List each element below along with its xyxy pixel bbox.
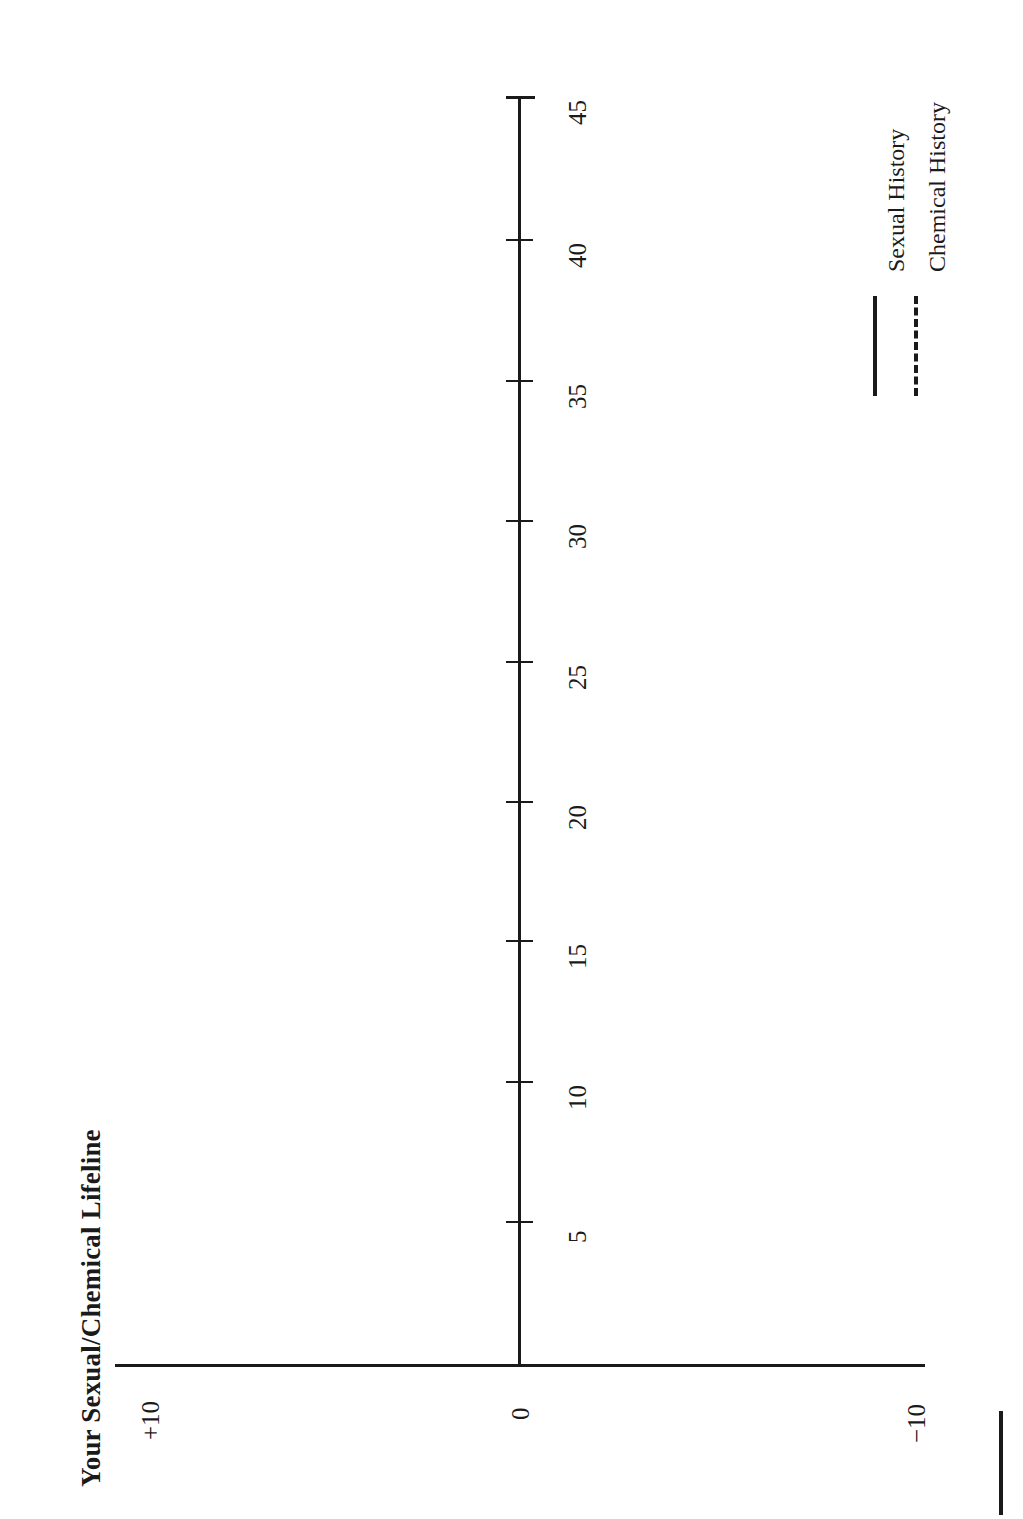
age-tick-15 [506,940,533,942]
age-tick-label-10: 10 [565,1085,590,1110]
age-tick-label-15: 15 [565,944,590,969]
age-tick-10 [506,1081,533,1083]
page-title: Your Sexual/Chemical Lifeline [78,1129,105,1487]
lifeline-worksheet-page: { "page": { "title": "Your Sexual/Chemic… [0,0,1023,1519]
age-tick-label-5: 5 [565,1231,590,1244]
age-tick-label-40: 40 [565,243,590,268]
age-tick-label-30: 30 [565,524,590,549]
age-tick-20 [506,801,533,803]
age-tick-label-20: 20 [565,805,590,830]
age-tick-35 [506,380,533,382]
age-tick-40 [506,239,533,241]
age-tick-label-45: 45 [565,100,590,125]
value-axis-label-minus-ten: −10 [904,1404,929,1443]
value-axis-label-zero: 0 [508,1408,533,1421]
age-tick-30 [506,520,533,522]
page-rule-mark [999,1411,1003,1515]
age-tick-label-35: 35 [565,384,590,409]
age-tick-5 [506,1221,533,1223]
legend-label-chemical-history: Chemical History [925,102,949,272]
value-axis-label-plus-ten: +10 [138,1401,163,1440]
age-tick-25 [506,661,533,663]
age-tick-45 [506,96,535,99]
age-tick-label-25: 25 [565,665,590,690]
plot-area[interactable] [115,96,925,1364]
